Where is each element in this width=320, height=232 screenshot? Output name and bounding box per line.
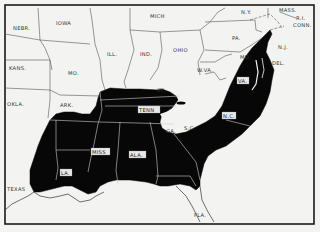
label-ga: GA. xyxy=(166,128,176,134)
label-wva: W.VA. xyxy=(197,67,213,73)
label-ark: ARK. xyxy=(60,102,73,108)
label-iowa: IOWA xyxy=(56,20,71,26)
label-nj: N.J. xyxy=(278,44,288,51)
label-nc: N.C. xyxy=(223,113,235,119)
label-nebr: NEBR. xyxy=(13,25,30,31)
label-texas: TEXAS xyxy=(6,186,25,192)
label-miss: MISS xyxy=(92,149,106,155)
label-ri: R.I. xyxy=(296,15,305,21)
label-ohio: OHIO xyxy=(173,47,188,53)
label-va: VA. xyxy=(238,78,247,84)
label-fla: FLA. xyxy=(194,212,206,218)
label-mich: MICH xyxy=(150,13,165,19)
label-kans: KANS. xyxy=(9,65,26,71)
label-ny: N.Y. xyxy=(241,9,252,15)
label-del: DEL. xyxy=(272,60,285,66)
label-conn: CONN. xyxy=(293,22,312,28)
label-md: MD. xyxy=(240,54,251,60)
label-mass: MASS. xyxy=(279,7,297,13)
label-ill: ILL. xyxy=(107,51,117,57)
label-mo: MO. xyxy=(68,70,79,76)
label-ind: IND. xyxy=(140,51,152,57)
label-sc: S.C. xyxy=(184,125,195,131)
label-ala: ALA. xyxy=(130,152,143,158)
label-la: LA. xyxy=(61,170,70,176)
map: NEBR. IOWA MICH N.Y. MASS. R.I. CONN. KA… xyxy=(0,0,320,232)
label-ky: KY. xyxy=(157,87,165,93)
label-okla: OKLA. xyxy=(7,101,24,107)
label-tenn: TENN xyxy=(138,107,154,113)
label-pa: PA. xyxy=(232,35,241,41)
